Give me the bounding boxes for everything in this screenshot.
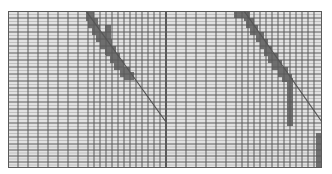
right-grid-svg <box>166 11 322 168</box>
left-grid-panel <box>8 11 166 168</box>
right-grid-panel <box>166 11 322 168</box>
left-grid-svg <box>8 11 166 168</box>
